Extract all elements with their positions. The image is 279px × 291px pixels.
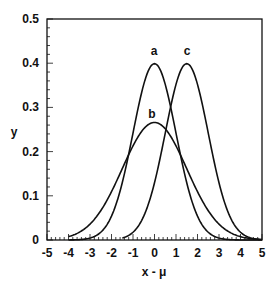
y-tick-label: 0.2 <box>22 145 39 159</box>
tick-labels: -5-4-3-2-101234500.10.20.30.40.5 <box>22 12 265 260</box>
x-tick-label: 4 <box>237 246 244 260</box>
x-tick-label: -2 <box>106 246 117 260</box>
y-tick-label: 0.1 <box>22 189 39 203</box>
y-tick-label: 0.3 <box>22 100 39 114</box>
x-tick-label: -5 <box>42 246 53 260</box>
y-axis-title: y <box>11 125 18 139</box>
curve-label-c: c <box>184 44 191 58</box>
y-tick-label: 0.5 <box>22 12 39 26</box>
x-axis-title: x - μ <box>142 265 167 279</box>
curves <box>69 64 263 240</box>
x-tick-label: -1 <box>128 246 139 260</box>
x-tick-label: 1 <box>173 246 180 260</box>
x-tick-label: -4 <box>63 246 74 260</box>
curve-label-a: a <box>151 44 158 58</box>
curve-c <box>122 64 262 240</box>
y-tick-label: 0.4 <box>22 56 39 70</box>
chart: -5-4-3-2-101234500.10.20.30.40.5 y x - μ… <box>0 0 279 291</box>
curve-label-b: b <box>148 107 155 121</box>
curve-a <box>69 64 263 240</box>
x-tick-label: 5 <box>259 246 266 260</box>
x-tick-label: 3 <box>216 246 223 260</box>
x-tick-label: 2 <box>194 246 201 260</box>
x-tick-label: 0 <box>151 246 158 260</box>
y-tick-label: 0 <box>32 233 39 247</box>
x-tick-label: -3 <box>85 246 96 260</box>
